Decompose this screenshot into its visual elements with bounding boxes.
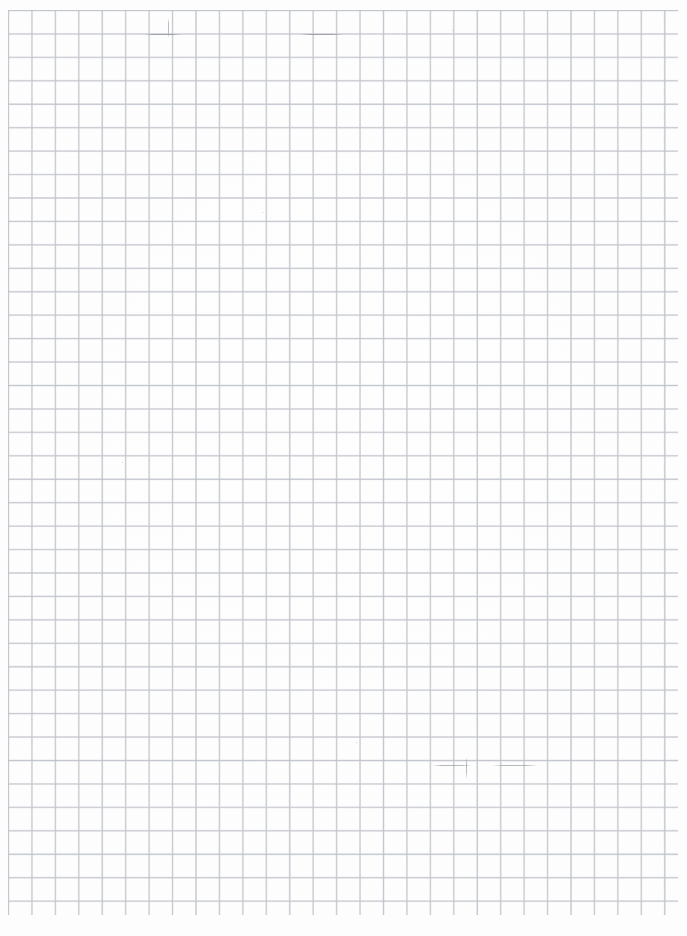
scanned-page [0,0,687,936]
grid-lines-tint-pass [8,10,678,915]
